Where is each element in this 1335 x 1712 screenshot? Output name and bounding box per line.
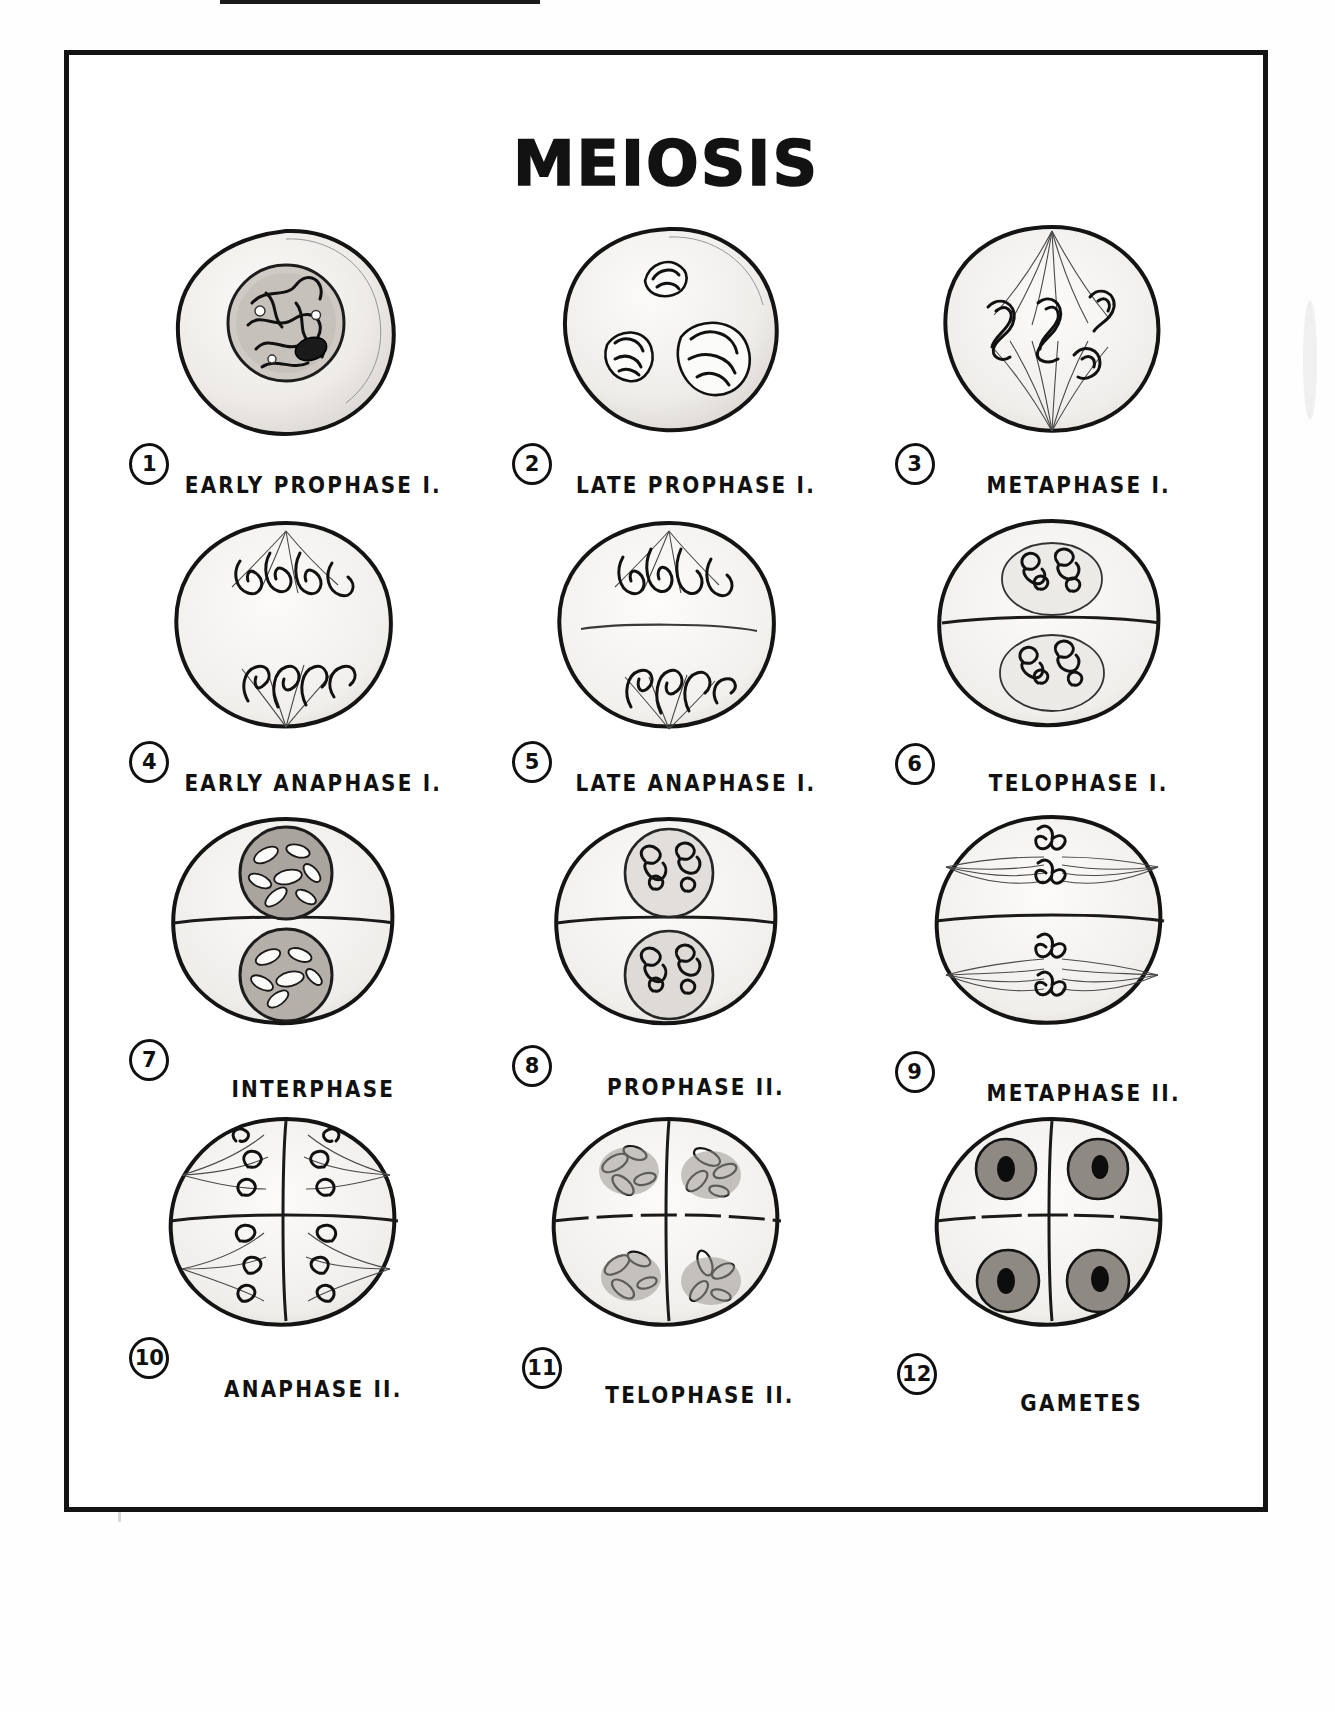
figure-label: ANAPHASE II. bbox=[175, 1375, 451, 1403]
figure-label: PROPHASE II. bbox=[558, 1073, 834, 1101]
plate-inner: MEIOSIS bbox=[69, 55, 1263, 1507]
figure-number-badge: 9 bbox=[895, 1051, 935, 1093]
figure-illustration bbox=[121, 803, 451, 1053]
figure-number: 9 bbox=[907, 1060, 922, 1084]
figure-number: 4 bbox=[142, 750, 157, 774]
figure-number-badge: 2 bbox=[512, 443, 552, 485]
figure-number-badge: 1 bbox=[129, 443, 169, 485]
figure-prophase-ii[interactable]: 8 PROPHASE II. bbox=[489, 803, 849, 1105]
figure-illustration bbox=[121, 1105, 451, 1355]
scan-edge-mark-top bbox=[220, 0, 540, 4]
figure-caption: 3 METAPHASE I. bbox=[887, 443, 1217, 505]
figure-telophase-ii[interactable]: 11 TELOPHASE II. bbox=[489, 1105, 849, 1403]
figure-number-badge: 10 bbox=[129, 1337, 169, 1379]
scan-smudge bbox=[1303, 300, 1317, 420]
figure-illustration bbox=[887, 1105, 1217, 1355]
figure-caption: 6 TELOPHASE I. bbox=[887, 741, 1217, 803]
figure-number: 6 bbox=[907, 752, 922, 776]
figure-label: EARLY ANAPHASE I. bbox=[175, 769, 451, 797]
figure-illustration bbox=[504, 803, 834, 1053]
figure-number: 8 bbox=[525, 1054, 540, 1078]
figure-illustration bbox=[504, 207, 834, 457]
figure-caption: 11 TELOPHASE II. bbox=[504, 1341, 834, 1403]
figure-grid: 1 EARLY PROPHASE I. bbox=[95, 207, 1243, 1403]
figure-telophase-i[interactable]: 6 TELOPHASE I. bbox=[872, 505, 1232, 803]
figure-metaphase-ii[interactable]: 9 METAPHASE II. bbox=[872, 803, 1232, 1105]
figure-number: 7 bbox=[142, 1048, 157, 1072]
figure-number-badge: 12 bbox=[897, 1353, 937, 1395]
figure-caption: 9 METAPHASE II. bbox=[887, 1039, 1217, 1105]
figure-number-badge: 5 bbox=[512, 741, 552, 783]
figure-number-badge: 8 bbox=[512, 1045, 552, 1087]
figure-caption: 1 EARLY PROPHASE I. bbox=[121, 443, 451, 505]
figure-caption: 5 LATE ANAPHASE I. bbox=[504, 741, 834, 803]
figure-label: TELOPHASE II. bbox=[566, 1381, 834, 1409]
figure-label: EARLY PROPHASE I. bbox=[175, 471, 451, 499]
page-title: MEIOSIS bbox=[69, 127, 1263, 200]
figure-caption: 10 ANAPHASE II. bbox=[121, 1341, 451, 1403]
figure-anaphase-ii[interactable]: 10 ANAPHASE II. bbox=[106, 1105, 466, 1403]
figure-early-prophase-i[interactable]: 1 EARLY PROPHASE I. bbox=[106, 207, 466, 505]
figure-number: 11 bbox=[527, 1356, 556, 1380]
figure-illustration bbox=[121, 505, 451, 755]
figure-label: GAMETES bbox=[947, 1389, 1217, 1417]
figure-interphase[interactable]: 7 INTERPHASE bbox=[106, 803, 466, 1105]
figure-number: 2 bbox=[525, 452, 540, 476]
figure-number: 3 bbox=[907, 452, 922, 476]
figure-caption: 2 LATE PROPHASE I. bbox=[504, 443, 834, 505]
figure-illustration bbox=[121, 207, 451, 457]
figure-caption: 8 PROPHASE II. bbox=[504, 1039, 834, 1105]
figure-number-badge: 6 bbox=[895, 743, 935, 785]
figure-metaphase-i[interactable]: 3 METAPHASE I. bbox=[872, 207, 1232, 505]
figure-number-badge: 3 bbox=[895, 443, 935, 485]
figure-row: 7 INTERPHASE bbox=[95, 803, 1243, 1105]
scanned-page: MEIOSIS bbox=[0, 0, 1335, 1712]
figure-row: 10 ANAPHASE II. bbox=[95, 1105, 1243, 1403]
plate-frame: MEIOSIS bbox=[64, 50, 1268, 1512]
figure-label: LATE ANAPHASE I. bbox=[558, 769, 834, 797]
figure-late-prophase-i[interactable]: 2 LATE PROPHASE I. bbox=[489, 207, 849, 505]
figure-number: 5 bbox=[525, 750, 540, 774]
figure-late-anaphase-i[interactable]: 5 LATE ANAPHASE I. bbox=[489, 505, 849, 803]
figure-caption: 12 GAMETES bbox=[887, 1341, 1217, 1403]
figure-number-badge: 11 bbox=[522, 1347, 562, 1389]
figure-label: TELOPHASE I. bbox=[941, 769, 1217, 797]
figure-number: 12 bbox=[902, 1362, 931, 1386]
figure-number-badge: 4 bbox=[129, 741, 169, 783]
figure-caption: 4 EARLY ANAPHASE I. bbox=[121, 741, 451, 803]
figure-label: LATE PROPHASE I. bbox=[558, 471, 834, 499]
figure-number: 10 bbox=[135, 1346, 164, 1370]
figure-label: METAPHASE I. bbox=[941, 471, 1217, 499]
figure-early-anaphase-i[interactable]: 4 EARLY ANAPHASE I. bbox=[106, 505, 466, 803]
figure-number-badge: 7 bbox=[129, 1039, 169, 1081]
figure-illustration bbox=[504, 505, 834, 755]
figure-caption: 7 INTERPHASE bbox=[121, 1039, 451, 1105]
figure-illustration bbox=[887, 803, 1217, 1053]
figure-illustration bbox=[887, 505, 1217, 755]
figure-row: 1 EARLY PROPHASE I. bbox=[95, 207, 1243, 505]
figure-number: 1 bbox=[142, 452, 157, 476]
figure-illustration bbox=[887, 207, 1217, 457]
figure-label: INTERPHASE bbox=[175, 1075, 451, 1103]
figure-gametes[interactable]: 12 GAMETES bbox=[872, 1105, 1232, 1403]
figure-row: 4 EARLY ANAPHASE I. bbox=[95, 505, 1243, 803]
figure-illustration bbox=[504, 1105, 834, 1355]
figure-label: METAPHASE II. bbox=[951, 1079, 1217, 1107]
